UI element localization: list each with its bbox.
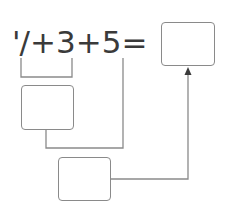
equation: '/ + 3 + 5 = — [12, 22, 147, 62]
plus-operator-1: + — [30, 24, 55, 60]
term-1: '/ — [12, 24, 29, 60]
step2-box[interactable] — [58, 157, 111, 201]
equals-sign: = — [121, 24, 146, 60]
addition-diagram: '/ + 3 + 5 = — [0, 0, 229, 215]
result-box[interactable] — [161, 22, 215, 66]
plus-operator-2: + — [76, 24, 101, 60]
term-3: 5 — [102, 24, 121, 60]
arrow-up-icon — [185, 67, 192, 75]
step1-box[interactable] — [21, 85, 74, 130]
term-2: 3 — [56, 24, 75, 60]
